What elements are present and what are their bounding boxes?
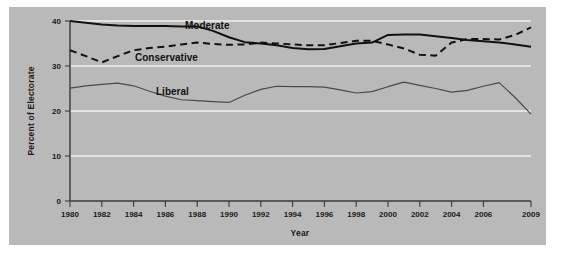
series-group (70, 21, 531, 114)
series-label-liberal: Liberal (156, 86, 189, 97)
x-tick-label-2002: 2002 (411, 210, 429, 219)
x-tick-label-2000: 2000 (379, 210, 397, 219)
x-tick-label-1996: 1996 (316, 210, 334, 219)
x-tick-label-1980: 1980 (61, 210, 79, 219)
series-line-liberal (70, 82, 531, 114)
x-tick-label-1984: 1984 (125, 210, 143, 219)
series-label-conservative: Conservative (135, 52, 198, 63)
y-tick-label-10: 10 (52, 152, 61, 161)
x-tick-label-1988: 1988 (188, 210, 206, 219)
x-tick-label-1992: 1992 (252, 210, 270, 219)
series-label-moderate: Moderate (185, 20, 230, 31)
x-axis-title: Year (291, 228, 310, 238)
x-tick-label-1986: 1986 (157, 210, 175, 219)
x-tick-label-1998: 1998 (347, 210, 365, 219)
screenshot-root: 40 30 20 10 0 1980 1982 1984 1986 1988 1… (0, 0, 572, 261)
x-tick-label-1990: 1990 (220, 210, 238, 219)
x-tick-label-1994: 1994 (284, 210, 302, 219)
x-tick-marks (70, 201, 531, 207)
y-tick-label-0: 0 (57, 197, 62, 206)
x-tick-label-1982: 1982 (93, 210, 111, 219)
x-tick-label-2004: 2004 (443, 210, 461, 219)
y-tick-label-40: 40 (52, 17, 61, 26)
y-tick-label-30: 30 (52, 62, 61, 71)
y-axis-title: Percent of Electorate (26, 66, 36, 155)
x-tick-labels: 1980 1982 1984 1986 1988 1990 1992 1994 … (61, 210, 540, 219)
y-tick-label-20: 20 (52, 107, 61, 116)
line-chart: 40 30 20 10 0 1980 1982 1984 1986 1988 1… (0, 0, 572, 261)
x-tick-label-2009: 2009 (522, 210, 540, 219)
y-tick-labels: 40 30 20 10 0 (52, 17, 61, 206)
x-tick-label-2006: 2006 (475, 210, 493, 219)
